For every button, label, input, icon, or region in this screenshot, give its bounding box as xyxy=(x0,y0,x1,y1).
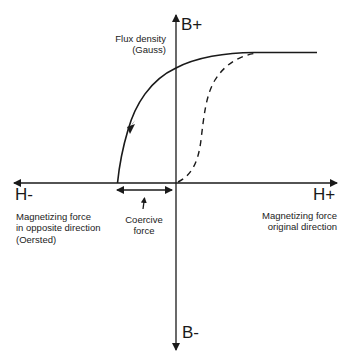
magnetizing-force-negative-caption: Magnetizing force in opposite direction … xyxy=(16,211,101,245)
magnetizing-force-positive-caption: Magnetizing force original direction xyxy=(262,210,337,233)
positive-caption-line-1: Magnetizing force xyxy=(262,210,337,221)
flux-density-caption: Flux density (Gauss) xyxy=(115,33,166,56)
flux-density-line-1: Flux density xyxy=(115,33,166,44)
coercive-line-2: force xyxy=(122,225,166,236)
demagnetization-curve xyxy=(118,52,259,183)
negative-caption-line-3: (Oersted) xyxy=(16,234,101,245)
curve-direction-arrowhead-icon xyxy=(127,124,135,134)
b-plus-label: B+ xyxy=(181,16,202,35)
h-plus-label: H+ xyxy=(313,186,335,205)
b-minus-label: B- xyxy=(182,324,199,343)
coercive-pointer-arrow xyxy=(143,198,145,209)
flux-density-line-2: (Gauss) xyxy=(115,44,166,55)
h-minus-label: H- xyxy=(15,186,33,205)
hysteresis-diagram xyxy=(0,0,350,359)
negative-caption-line-2: in opposite direction xyxy=(16,222,101,233)
negative-caption-line-1: Magnetizing force xyxy=(16,211,101,222)
coercive-line-1: Coercive xyxy=(122,214,166,225)
coercive-force-label: Coercive force xyxy=(122,214,166,237)
positive-caption-line-2: original direction xyxy=(262,221,337,232)
initial-magnetization-curve xyxy=(178,53,258,182)
